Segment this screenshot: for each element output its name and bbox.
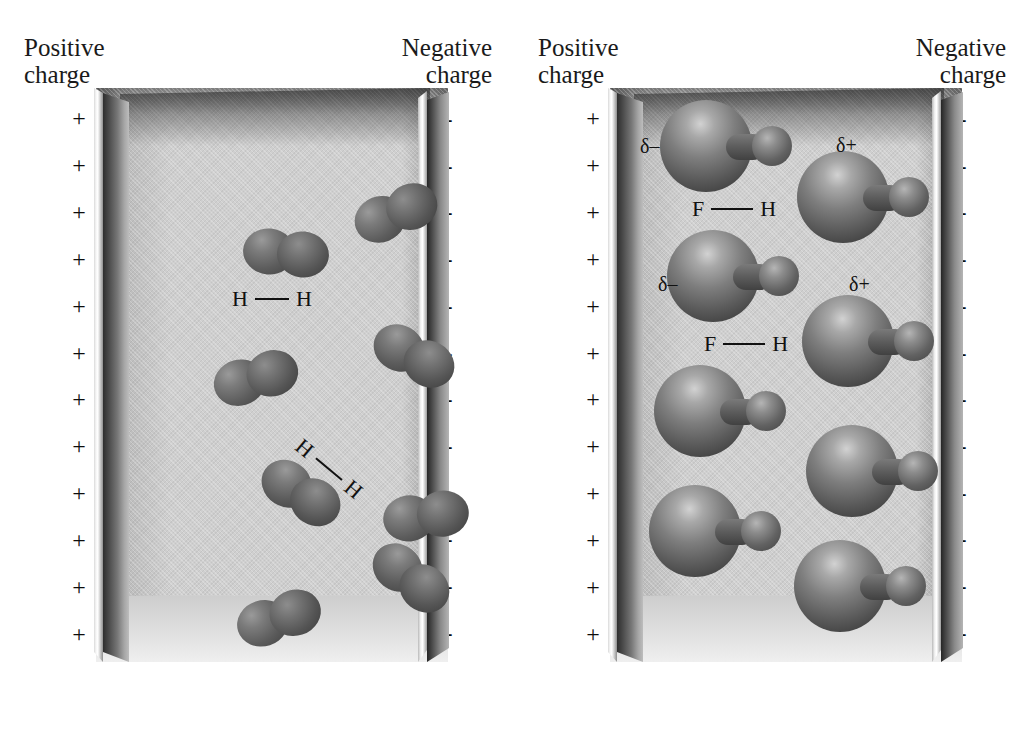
capacitor-chamber-right: δ– δ+ δ– δ+ F H F H — [610, 88, 962, 662]
charge-symbol-plus: + — [72, 153, 86, 177]
molecule-hf — [797, 151, 929, 243]
positive-plate-right — [608, 88, 648, 662]
atom-label-f: F — [692, 196, 704, 222]
bond-line — [711, 208, 753, 210]
atom-label-h: H — [760, 196, 776, 222]
capacitor-chamber-left: H H H H — [96, 88, 448, 662]
charge-symbol-plus: + — [72, 247, 86, 271]
molecule-hf — [802, 295, 934, 387]
atom-h — [759, 256, 799, 296]
partial-charge-delta-negative: δ– — [640, 135, 659, 158]
plate-face — [941, 88, 963, 662]
atom-label-f: F — [704, 331, 716, 357]
plate-face — [103, 88, 129, 662]
charge-symbol-plus: + — [72, 387, 86, 411]
partial-charge-delta-positive: δ+ — [836, 134, 857, 157]
charge-symbol-plus: + — [586, 153, 600, 177]
molecule-hf — [660, 100, 792, 192]
charge-symbol-plus: + — [586, 294, 600, 318]
bond-line — [723, 343, 765, 345]
negative-charge-label-left: Negative charge — [402, 34, 492, 88]
atom-label-h: H — [772, 331, 788, 357]
plate-edge-highlight — [94, 88, 103, 662]
charge-symbol-plus: + — [586, 434, 600, 458]
partial-charge-delta-negative: δ– — [658, 273, 677, 296]
positive-charge-label-left: Positive charge — [24, 34, 105, 88]
charge-symbol-plus: + — [72, 106, 86, 130]
charge-symbol-plus: + — [586, 575, 600, 599]
charge-symbol-plus: + — [72, 200, 86, 224]
chamber-top-shadow — [120, 88, 430, 146]
plate-face — [617, 88, 643, 662]
positive-plate-left — [94, 88, 134, 662]
charge-symbol-plus: + — [72, 294, 86, 318]
charge-symbol-plus: + — [72, 434, 86, 458]
atom-h — [894, 321, 934, 361]
bond-line — [255, 298, 289, 300]
positive-charge-label-right: Positive charge — [538, 34, 619, 88]
negative-plate-right — [930, 88, 964, 662]
atom-h — [741, 511, 781, 551]
positive-charge-column-right: + + + + + + + + + + + + — [576, 88, 610, 662]
charge-symbol-plus: + — [72, 341, 86, 365]
charge-symbol-plus: + — [72, 481, 86, 505]
bond-label-f-h: F H — [692, 196, 776, 222]
molecule-hf — [649, 485, 781, 577]
molecule-hf — [806, 425, 938, 517]
charge-symbol-plus: + — [586, 341, 600, 365]
molecule-hf — [667, 230, 799, 322]
charge-symbol-plus: + — [586, 528, 600, 552]
positive-charge-column-left: + + + + + + + + + + + + — [62, 88, 96, 662]
molecule-h2 — [241, 226, 331, 279]
bond-label-h-h: H H — [232, 286, 312, 312]
charge-symbol-plus: + — [72, 622, 86, 646]
bond-line — [315, 457, 342, 480]
charge-symbol-plus: + — [72, 528, 86, 552]
charge-symbol-plus: + — [586, 622, 600, 646]
charge-symbol-plus: + — [586, 387, 600, 411]
bond-label-f-h: F H — [704, 331, 788, 357]
negative-charge-label-right: Negative charge — [916, 34, 1006, 88]
charge-symbol-plus: + — [586, 481, 600, 505]
charge-symbol-plus: + — [586, 106, 600, 130]
atom-h — [889, 177, 929, 217]
atom-h — [752, 126, 792, 166]
atom-h — [886, 566, 926, 606]
panel-nonpolar-h2: Positive charge Negative charge + + + + … — [0, 0, 514, 739]
charge-symbol-plus: + — [72, 575, 86, 599]
partial-charge-delta-positive: δ+ — [849, 273, 870, 296]
molecule-hf — [794, 540, 926, 632]
molecule-hf — [654, 365, 786, 457]
atom-h — [898, 451, 938, 491]
plate-edge-highlight — [608, 88, 617, 662]
panel-polar-hf: Positive charge Negative charge + + + + … — [514, 0, 1028, 739]
charge-symbol-plus: + — [586, 200, 600, 224]
atom-h — [746, 391, 786, 431]
charge-symbol-plus: + — [586, 247, 600, 271]
atom-label-h: H — [232, 286, 248, 312]
atom-label-h: H — [296, 286, 312, 312]
